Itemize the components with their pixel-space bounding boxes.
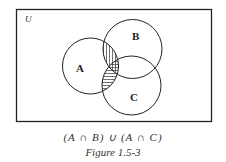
set-a-label: A [76,62,84,74]
figure-caption: Figure 1.5-3 [0,146,226,158]
set-c-label: C [130,91,138,103]
set-b-label: B [132,30,140,42]
set-expression: (A ∩ B) ∪ (A ∩ C) [0,131,226,144]
universe-label: U [25,14,32,24]
shaded-region-a-intersect-c [60,15,160,125]
